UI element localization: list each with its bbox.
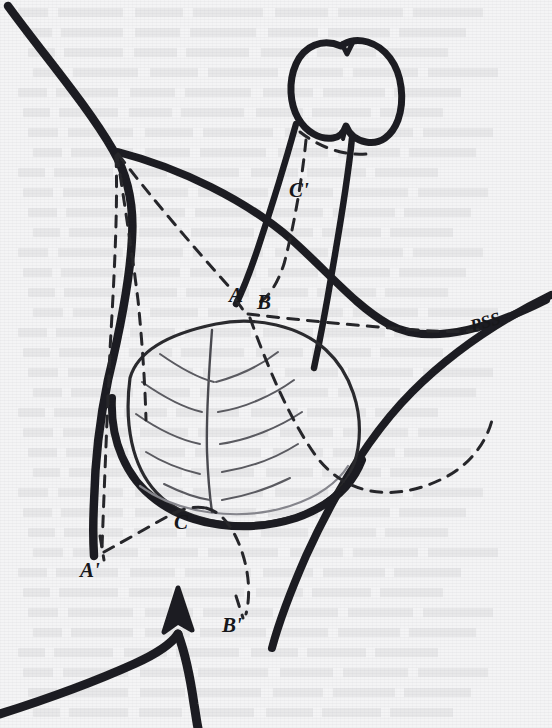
figure-label-a-prime: A' [80, 558, 100, 583]
direction-arrow-head [164, 588, 192, 632]
figure-label-a: A [229, 283, 243, 308]
dashed-lower-right-curve [250, 318, 492, 492]
scrotum-outline [128, 321, 359, 523]
scrotum-rugae-right [216, 352, 302, 500]
penis-shaft-right-border [314, 138, 352, 368]
right-thigh-fold-line [118, 152, 546, 334]
scrotum-median-raphe [207, 330, 212, 512]
figure-label-c: C [174, 510, 188, 535]
anatomical-line-drawing [0, 0, 552, 728]
figure-label-b: B [257, 290, 271, 315]
dashed-AB-to-PSS [248, 314, 478, 332]
perineal-skin-fold-line [272, 295, 551, 648]
scrotum-rugae-left [136, 354, 214, 500]
figure-label-c-prime: C' [289, 178, 309, 203]
scrotum-inferior-heavy-border [112, 398, 362, 526]
figure-label-b-prime: B' [222, 613, 242, 638]
direction-arrow-shaft-lower [178, 634, 198, 728]
penis-shaft-left-border [236, 124, 296, 304]
figure-canvas: C'ABPSSCA'B' [0, 0, 552, 728]
direction-arrow-shaft [0, 634, 178, 714]
